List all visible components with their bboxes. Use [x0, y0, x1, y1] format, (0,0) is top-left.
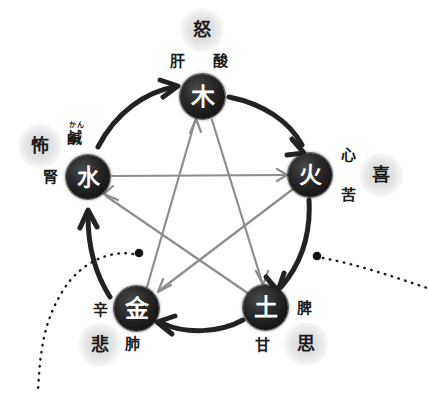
label-wood-organ: 肝: [170, 54, 185, 69]
label-fire-organ: 心: [341, 148, 356, 163]
node-metal[interactable]: 金: [114, 286, 159, 331]
node-earth[interactable]: 土: [243, 285, 288, 330]
node-water[interactable]: 水: [66, 155, 110, 199]
label-water-taste: 鹹: [67, 131, 82, 146]
node-metal-glyph: 金: [125, 296, 149, 320]
label-water-emotion: 怖: [31, 137, 49, 155]
label-wood-emotion: 怒: [193, 21, 211, 39]
label-fire-taste: 苦: [341, 188, 356, 203]
node-wood[interactable]: 木: [180, 74, 225, 119]
label-water-taste-furigana: かん: [69, 122, 84, 129]
label-fire-emotion: 喜: [372, 166, 390, 184]
label-earth-organ: 脾: [297, 301, 312, 316]
node-earth-glyph: 土: [254, 295, 278, 319]
label-earth-emotion: 思: [297, 335, 315, 353]
label-earth-taste: 甘: [255, 338, 270, 353]
wuxing-diagram: 怒 肝 酸 木 怖 かん 鹹 腎 水 喜 心 苦 火 悲 辛 肺 金 思: [0, 0, 428, 394]
label-metal-emotion: 悲: [91, 336, 109, 354]
labels-layer: 怒 肝 酸 木 怖 かん 鹹 腎 水 喜 心 苦 火 悲 辛 肺 金 思: [0, 0, 428, 394]
label-wood-taste: 酸: [213, 54, 228, 69]
node-fire[interactable]: 火: [288, 153, 332, 197]
node-water-glyph: 水: [77, 165, 100, 188]
label-metal-taste: 辛: [93, 303, 108, 318]
label-water-organ: 腎: [43, 170, 58, 185]
label-metal-organ: 肺: [125, 337, 140, 352]
node-fire-glyph: 火: [299, 163, 322, 186]
node-wood-glyph: 木: [191, 84, 215, 108]
